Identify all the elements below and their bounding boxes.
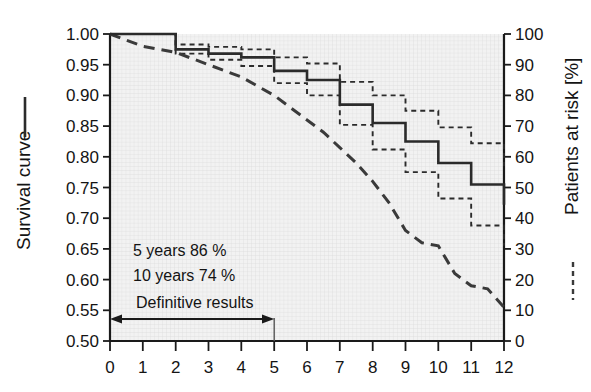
y2-tick-label: 70	[515, 117, 534, 136]
x-tick-label: 9	[401, 358, 410, 377]
y2-tick-label: 80	[515, 86, 534, 105]
y2-tick-label: 100	[515, 25, 543, 44]
y2-tick-label: 30	[515, 240, 534, 259]
y-tick-label: 0.85	[66, 117, 99, 136]
y-tick-label: 0.95	[66, 56, 99, 75]
ten-year-annotation: 10 years 74 %	[133, 267, 235, 284]
y2-tick-label: 20	[515, 271, 534, 290]
y-tick-label: 1.00	[66, 25, 99, 44]
x-tick-label: 8	[368, 358, 377, 377]
y2-tick-label: 60	[515, 148, 534, 167]
y-tick-label: 0.60	[66, 271, 99, 290]
x-tick-label: 3	[204, 358, 213, 377]
y-tick-label: 0.90	[66, 86, 99, 105]
five-year-annotation: 5 years 86 %	[133, 242, 226, 259]
y-tick-label: 0.65	[66, 240, 99, 259]
y2-tick-label: 50	[515, 179, 534, 198]
y-tick-label: 0.70	[66, 209, 99, 228]
y-tick-label: 0.50	[66, 332, 99, 351]
x-tick-label: 2	[171, 358, 180, 377]
left-axis-tick-labels: 1.00 0.95 0.90 0.85 0.80 0.75 0.70 0.65 …	[66, 25, 99, 351]
y2-tick-label: 40	[515, 209, 534, 228]
y-tick-label: 0.75	[66, 179, 99, 198]
x-tick-label: 4	[237, 358, 246, 377]
right-axis-title-group: Patients at risk [%]	[561, 58, 582, 300]
x-axis-ticks	[110, 341, 504, 351]
x-tick-label: 12	[495, 358, 514, 377]
x-tick-label: 11	[462, 358, 480, 377]
chart-svg: 1.00 0.95 0.90 0.85 0.80 0.75 0.70 0.65 …	[0, 0, 591, 392]
x-axis-tick-labels: 0 1 2 3 4 5 6 7 8 9 10 11 12	[105, 358, 513, 377]
x-tick-label: 5	[269, 358, 278, 377]
y-tick-label: 0.80	[66, 148, 99, 167]
x-tick-label: 7	[335, 358, 344, 377]
left-axis-title: Survival curve	[13, 131, 34, 250]
left-axis-title-group: Survival curve	[13, 97, 34, 250]
survival-chart: 1.00 0.95 0.90 0.85 0.80 0.75 0.70 0.65 …	[0, 0, 591, 392]
x-tick-label: 0	[105, 358, 114, 377]
x-tick-label: 10	[429, 358, 448, 377]
y2-tick-label: 90	[515, 56, 534, 75]
x-tick-label: 6	[302, 358, 311, 377]
right-axis-tick-labels: 100 90 80 70 60 50 40 30 20 10 0	[515, 25, 543, 351]
x-tick-label: 1	[138, 358, 147, 377]
y2-tick-label: 0	[515, 332, 524, 351]
y2-tick-label: 10	[515, 301, 534, 320]
right-axis-title: Patients at risk [%]	[561, 58, 582, 215]
definitive-results-annotation: Definitive results	[136, 294, 253, 311]
y-tick-label: 0.55	[66, 301, 99, 320]
